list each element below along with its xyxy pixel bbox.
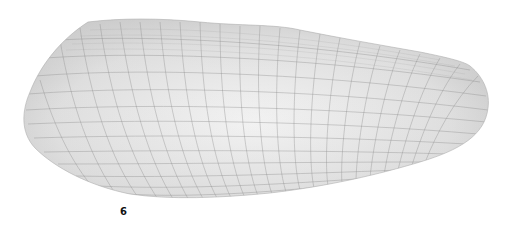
figure-label: 6	[120, 206, 127, 217]
mesh-surface-figure	[0, 0, 507, 227]
